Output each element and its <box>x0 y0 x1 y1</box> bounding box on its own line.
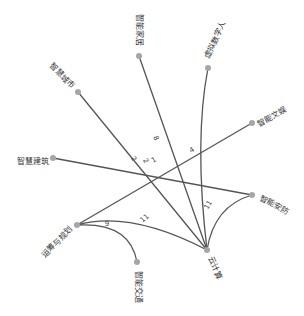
network-graph: 8241111192 智能家居虚拟数字人智慧城市智能文娱智慧建筑智能安防运筹与规… <box>0 0 304 316</box>
node-label-traffic: 智能交通 <box>134 271 144 303</box>
node-security[interactable] <box>249 192 255 198</box>
node-home[interactable] <box>136 53 142 59</box>
node-traffic[interactable] <box>134 259 140 265</box>
node-label-building: 智慧建筑 <box>17 156 49 166</box>
edge-label-building-security: 1 <box>150 156 158 165</box>
edge-labels-layer: 8241111192 <box>105 134 214 228</box>
edge-label-ops-home: 2 <box>141 157 150 165</box>
node-vhuman[interactable] <box>205 65 211 71</box>
node-ent[interactable] <box>249 120 255 126</box>
edge-label-home-cloud: 8 <box>151 134 160 141</box>
edge-label-security-cloud: 11 <box>203 199 214 211</box>
edge-vhuman-cloud <box>201 68 208 250</box>
node-label-ops: 运筹与规划 <box>39 224 74 259</box>
node-label-home: 智能家居 <box>135 14 145 46</box>
node-label-cloud: 云计算 <box>206 255 225 281</box>
edge-label-ops-traffic: 9 <box>105 220 109 228</box>
node-ops[interactable] <box>74 222 80 228</box>
node-label-security: 智能安防 <box>258 193 291 217</box>
node-cloud[interactable] <box>204 247 210 253</box>
edge-ops-traffic <box>77 225 137 262</box>
node-label-city: 智慧城市 <box>48 61 78 91</box>
node-label-ent: 智能文娱 <box>255 105 288 129</box>
edge-label-ops-cloud: 11 <box>139 213 151 225</box>
node-label-vhuman: 虚拟数字人 <box>202 20 228 60</box>
node-city[interactable] <box>75 89 81 95</box>
node-building[interactable] <box>50 155 56 161</box>
edge-home-cloud <box>139 56 207 250</box>
edge-label-ent-ops: 4 <box>188 145 196 154</box>
